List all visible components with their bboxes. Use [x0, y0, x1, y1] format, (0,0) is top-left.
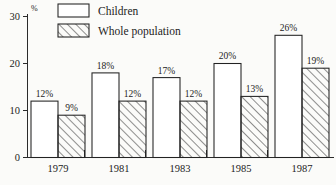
bar-chart: % 0 10 20 30 12% 9% 1979: [0, 0, 336, 185]
chart-canvas: % 0 10 20 30 12% 9% 1979: [0, 0, 336, 185]
bar-whole-population-1983: [180, 101, 207, 157]
value-label-whole-population-1983: 12%: [185, 89, 203, 99]
legend-swatch-whole-population: [58, 24, 89, 37]
y-tick-label-30: 30: [10, 11, 21, 22]
value-label-children-1985: 20%: [219, 51, 237, 61]
bar-children-1981: [92, 73, 119, 158]
bar-group-1987: 26% 19% 1987: [275, 23, 329, 174]
x-tick-label-1985: 1985: [231, 163, 252, 174]
bar-group-1985: 20% 13% 1985: [214, 51, 268, 174]
bar-whole-population-1985: [241, 96, 268, 157]
value-label-children-1981: 18%: [97, 61, 115, 71]
y-tick-label-10: 10: [10, 105, 21, 116]
value-label-children-1979: 12%: [36, 89, 54, 99]
legend-label-children: Children: [98, 5, 138, 17]
value-label-whole-population-1987: 19%: [307, 56, 325, 66]
bar-children-1983: [153, 78, 180, 158]
bar-group-1981: 18% 12% 1981: [92, 61, 146, 174]
y-tick-label-0: 0: [15, 152, 20, 163]
bar-children-1979: [31, 101, 58, 157]
chart-legend: Children Whole population: [58, 4, 181, 38]
x-tick-label-1987: 1987: [292, 163, 313, 174]
value-label-children-1983: 17%: [158, 66, 176, 76]
bar-whole-population-1981: [119, 101, 146, 157]
value-label-whole-population-1979: 9%: [65, 103, 78, 113]
value-label-children-1987: 26%: [280, 23, 298, 33]
x-tick-label-1981: 1981: [109, 163, 130, 174]
y-ticks: [23, 17, 28, 158]
y-tick-label-20: 20: [10, 58, 21, 69]
bar-group-1983: 17% 12% 1983: [153, 66, 207, 175]
bar-children-1985: [214, 64, 241, 158]
bar-group-1979: 12% 9% 1979: [31, 89, 85, 174]
y-axis-unit: %: [31, 4, 38, 13]
legend-label-whole-population: Whole population: [98, 25, 181, 38]
bar-whole-population-1979: [58, 115, 85, 157]
x-tick-label-1983: 1983: [170, 163, 191, 174]
value-label-whole-population-1985: 13%: [246, 84, 264, 94]
x-tick-label-1979: 1979: [48, 163, 69, 174]
value-label-whole-population-1981: 12%: [124, 89, 142, 99]
bar-children-1987: [275, 35, 302, 157]
bar-whole-population-1987: [302, 68, 329, 157]
legend-swatch-children: [58, 4, 89, 17]
